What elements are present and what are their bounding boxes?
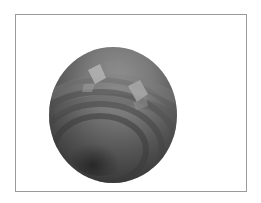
faceted-sphere-render	[0, 0, 261, 203]
sphere-facet-bands	[10, 74, 190, 203]
